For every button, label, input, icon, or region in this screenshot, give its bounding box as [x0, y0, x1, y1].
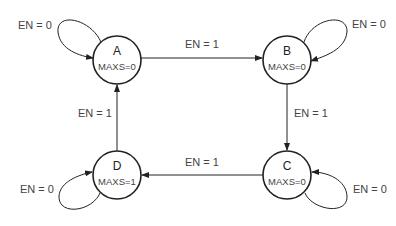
transition-label: EN = 1 [185, 156, 219, 168]
transition-c-self-loop: EN = 0 [305, 172, 387, 209]
transition-label: EN = 1 [185, 38, 219, 50]
state-name: A [113, 44, 121, 58]
transition-label: EN = 1 [294, 107, 328, 119]
transition-label: EN = 1 [78, 107, 112, 119]
state-c: C MAXS=0 [263, 151, 311, 199]
state-d: D MAXS=1 [93, 151, 141, 199]
transition-a-to-b: EN = 1 [141, 38, 262, 58]
state-output: MAXS=1 [98, 176, 136, 187]
transition-d-to-a: EN = 1 [78, 85, 117, 151]
transition-label: EN = 0 [352, 18, 386, 30]
transition-a-self-loop: EN = 0 [18, 19, 101, 58]
state-name: B [283, 44, 291, 58]
state-b: B MAXS=0 [263, 36, 311, 84]
transition-label: EN = 0 [18, 19, 52, 31]
state-name: D [113, 159, 122, 173]
transition-c-to-d: EN = 1 [142, 156, 263, 175]
transition-b-to-c: EN = 1 [287, 84, 328, 150]
transition-d-self-loop: EN = 0 [20, 172, 100, 209]
transition-label: EN = 0 [20, 183, 54, 195]
state-name: C [283, 159, 292, 173]
state-output: MAXS=0 [98, 61, 136, 72]
transition-b-self-loop: EN = 0 [304, 18, 386, 61]
state-output: MAXS=0 [268, 61, 306, 72]
state-diagram: EN = 1 EN = 1 EN = 1 EN = 1 EN = 0 EN = … [0, 0, 396, 226]
transition-label: EN = 0 [353, 183, 387, 195]
state-a: A MAXS=0 [93, 36, 141, 84]
state-output: MAXS=0 [268, 176, 306, 187]
